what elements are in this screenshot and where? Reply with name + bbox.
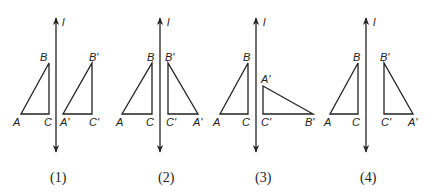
triangle-abc: [122, 63, 152, 114]
vertex-label-a-prime: A': [260, 73, 271, 85]
triangle-abc: [330, 63, 358, 114]
vertex-label-c-prime: C': [261, 116, 272, 128]
vertex-label-c-prime: C': [381, 116, 392, 128]
figure-caption: (4): [360, 170, 377, 186]
vertex-label-a-prime: A': [192, 116, 203, 128]
vertex-label-c: C: [242, 116, 250, 128]
vertex-label-c: C: [146, 116, 154, 128]
vertex-label-b-prime: B': [165, 51, 175, 63]
axis-label: l: [62, 16, 65, 28]
triangle-abc: [21, 63, 49, 114]
figure-1: l A B C A' B' C' (1): [12, 16, 100, 186]
axis-label: l: [263, 16, 266, 28]
vertex-label-a: A: [115, 116, 123, 128]
vertex-label-c: C: [44, 116, 52, 128]
triangle-a-prime-b-prime-c-prime: [63, 63, 92, 114]
figure-caption: (2): [158, 170, 175, 186]
vertex-label-a: A: [212, 116, 220, 128]
vertex-label-b-prime: B': [89, 51, 99, 63]
axis-label: l: [167, 16, 170, 28]
triangle-a-prime-b-prime-c-prime: [263, 86, 313, 114]
vertex-label-b: B: [243, 51, 250, 63]
figure-3: l A B C A' B' C' (3): [212, 16, 315, 186]
figure-2: l A B C A' B' C' (2): [115, 16, 203, 186]
vertex-label-a: A: [12, 116, 20, 128]
triangle-a-prime-b-prime-c-prime: [384, 63, 413, 114]
triangle-abc: [220, 63, 248, 114]
figure-caption: (3): [255, 170, 272, 186]
vertex-label-c-prime: C': [89, 116, 100, 128]
vertex-label-c: C: [352, 116, 360, 128]
figure-caption: (1): [50, 170, 67, 186]
vertex-label-b: B: [147, 51, 154, 63]
reflection-diagram: l A B C A' B' C' (1) l A B C A' B' C' (2…: [0, 0, 435, 195]
vertex-label-c-prime: C': [166, 116, 177, 128]
vertex-label-a: A: [323, 116, 331, 128]
vertex-label-b-prime: B': [305, 116, 315, 128]
axis-label: l: [373, 16, 376, 28]
vertex-label-a-prime: A': [407, 116, 418, 128]
figure-4: l A B C A' B' C' (4): [323, 16, 418, 186]
vertex-label-a-prime: A': [59, 116, 70, 128]
vertex-label-b: B: [40, 51, 47, 63]
triangle-a-prime-b-prime-c-prime: [168, 63, 198, 114]
vertex-label-b-prime: B': [380, 51, 390, 63]
vertex-label-b: B: [353, 51, 360, 63]
